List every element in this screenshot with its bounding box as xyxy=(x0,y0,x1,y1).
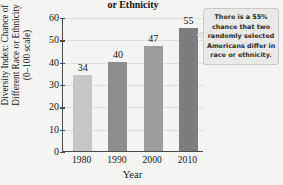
y-axis-tick-mark xyxy=(60,152,65,153)
chart-screenshot: or Ethnicity Diversity Index: Chance of … xyxy=(0,0,283,185)
bar[interactable]: 40 xyxy=(108,62,127,151)
y-axis-tick-mark xyxy=(60,18,65,19)
callout-line-4: Americans differ in xyxy=(207,42,275,52)
y-axis-tick-label: 20 xyxy=(49,102,59,112)
bar-value-label: 47 xyxy=(148,34,158,44)
x-axis-tick-label: 1990 xyxy=(107,155,126,165)
bar[interactable]: 47 xyxy=(144,46,163,151)
callout-line-1: There is a 55% xyxy=(207,13,275,23)
y-axis-tick-mark xyxy=(60,63,65,64)
callout-annotation: There is a 55%chance that tworandomly se… xyxy=(203,8,279,65)
y-axis-tick-mark xyxy=(60,130,65,131)
y-axis-tick-label: 50 xyxy=(49,35,59,45)
bar-value-label: 40 xyxy=(113,50,123,60)
x-axis-tick-label: 2000 xyxy=(143,155,162,165)
y-axis-title-line-3: (0–100 scale) xyxy=(22,0,33,125)
bar-value-label: 55 xyxy=(183,16,193,26)
x-axis-tick-label: 2010 xyxy=(178,155,197,165)
callout-line-3: randomly selected xyxy=(207,32,275,42)
y-axis-tick-label: 60 xyxy=(49,13,59,23)
x-axis-tick-label: 1980 xyxy=(72,155,91,165)
y-axis-tick-label: 30 xyxy=(49,80,59,90)
bar-value-label: 34 xyxy=(78,63,88,73)
y-axis-title: Diversity Index: Chance of Different Rac… xyxy=(0,0,42,125)
chart-title: or Ethnicity xyxy=(58,0,208,11)
y-axis-tick-mark xyxy=(60,107,65,108)
y-axis-tick-label: 40 xyxy=(49,58,59,68)
x-axis-title: Year xyxy=(62,169,203,181)
y-axis-tick-label: 10 xyxy=(49,125,59,135)
y-axis-title-line-1: Diversity Index: Chance of xyxy=(0,0,11,125)
plot-area: 0102030405060 34404755 xyxy=(62,18,203,152)
bar[interactable]: 34 xyxy=(73,75,92,151)
y-axis-title-line-2: Different Race or Ethnicity xyxy=(11,0,22,125)
y-axis-tick-mark xyxy=(60,85,65,86)
y-axis-tick-label: 0 xyxy=(54,147,59,157)
y-axis-tick-mark xyxy=(60,40,65,41)
callout-line-5: race or ethnicity. xyxy=(207,51,275,61)
callout-line-2: chance that two xyxy=(207,23,275,33)
